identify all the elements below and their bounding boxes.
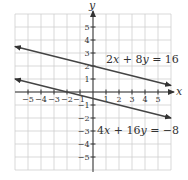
y-tick-label: 3 <box>84 49 89 58</box>
x-tick-label: −3 <box>48 95 60 104</box>
x-tick-label: 3 <box>129 95 134 104</box>
axes <box>15 11 174 172</box>
x-tick-label: 4 <box>142 95 147 104</box>
x-tick-label: −5 <box>22 95 34 104</box>
equation-label-line-2: 4x + 16y = −8 <box>97 124 179 137</box>
y-axis-label: y <box>88 0 96 12</box>
y-tick-label: 4 <box>84 36 89 45</box>
y-tick-label: −1 <box>78 101 90 110</box>
x-tick-label: −4 <box>35 95 47 104</box>
y-tick-label: 5 <box>84 23 89 32</box>
coordinate-plane: −5−4−3−2−11234554321−1−2−3−4−5 x y 2x + … <box>0 0 188 180</box>
x-axis-label: x <box>176 85 183 98</box>
y-tick-label: −4 <box>78 140 90 149</box>
y-tick-label: −2 <box>78 114 90 123</box>
y-tick-label: −3 <box>78 127 90 136</box>
y-tick-label: −5 <box>78 153 90 162</box>
equation-label-line-1: 2x + 8y = 16 <box>106 53 179 66</box>
x-tick-label: −2 <box>61 95 73 104</box>
x-tick-label: 2 <box>116 95 121 104</box>
y-tick-label: 1 <box>84 75 89 84</box>
x-tick-label: 5 <box>155 95 160 104</box>
